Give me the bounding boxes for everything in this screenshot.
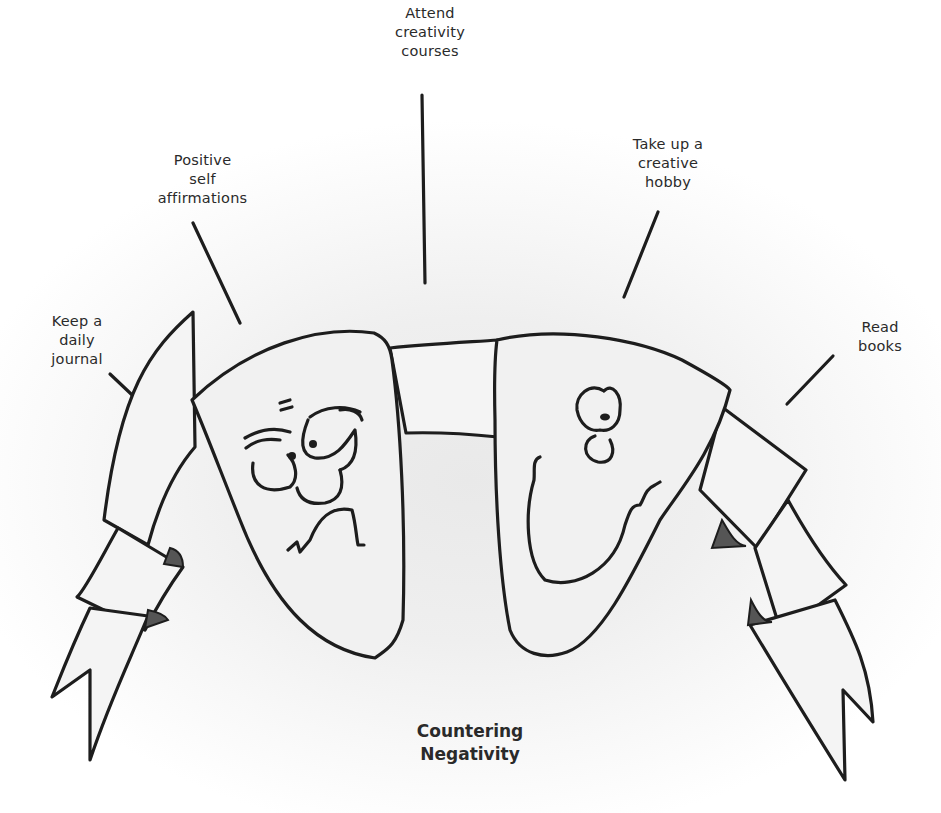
diagram-title: Countering Negativity bbox=[380, 720, 560, 766]
strategy-label-books: Read books bbox=[840, 318, 920, 356]
connector-affirmations bbox=[193, 223, 240, 323]
smiling-mask bbox=[495, 334, 730, 656]
strategy-label-hobby: Take up a creative hobby bbox=[598, 135, 738, 192]
frowning-mask bbox=[192, 331, 404, 658]
strategy-label-affirmations: Positive self affirmations bbox=[120, 151, 285, 208]
left-ribbon bbox=[52, 312, 195, 760]
diagram-canvas: Keep a daily journal Positive self affir… bbox=[0, 0, 941, 813]
center-band bbox=[390, 340, 498, 437]
connector-hobby bbox=[624, 212, 658, 297]
strategy-label-journal: Keep a daily journal bbox=[22, 312, 132, 369]
connector-courses bbox=[422, 95, 425, 283]
right-ribbon bbox=[700, 407, 873, 780]
connector-books bbox=[787, 356, 833, 404]
strategy-label-courses: Attend creativity courses bbox=[360, 4, 500, 61]
mask-ribbon-illustration bbox=[0, 0, 941, 813]
